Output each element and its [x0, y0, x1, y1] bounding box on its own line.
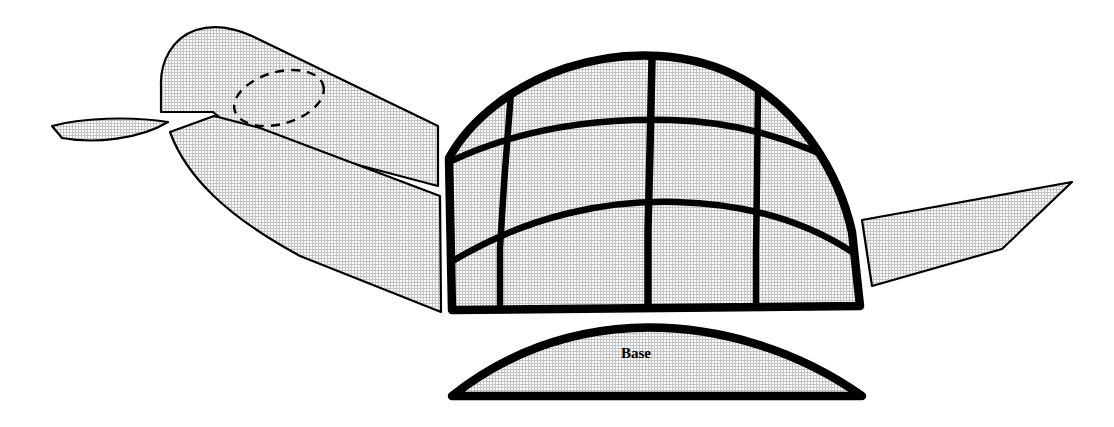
shell-seam-vertical-3 [756, 86, 758, 314]
shell-seam-vertical-2 [648, 58, 652, 316]
base-label: Base [621, 345, 651, 361]
beak-piece [40, 108, 190, 158]
shell-piece [440, 40, 880, 330]
base-piece: Base [445, 320, 870, 406]
diagram-canvas: Base [0, 0, 1114, 427]
turtle-pattern-figure: Base [0, 0, 1114, 427]
rear-flipper-piece [855, 175, 1085, 295]
